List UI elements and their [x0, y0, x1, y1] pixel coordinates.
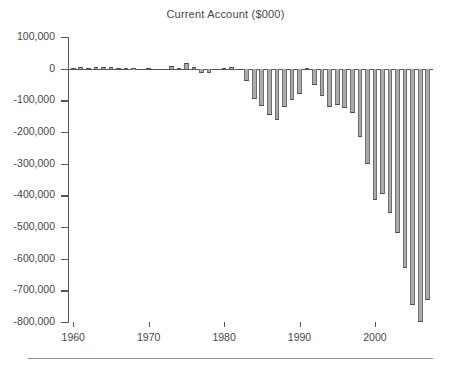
x-axis-tick-label: 1990 [288, 331, 311, 343]
bar [395, 69, 400, 233]
bar [161, 69, 166, 71]
x-axis-tick-label: 2000 [363, 331, 386, 343]
bar [124, 68, 129, 69]
bar [199, 69, 204, 74]
bar [222, 68, 227, 69]
bar [365, 69, 370, 165]
y-axis-tick-label: -200,000 [14, 125, 55, 137]
y-axis-tick-mark [61, 322, 69, 323]
bar [229, 67, 234, 69]
bar [154, 69, 159, 70]
bar [320, 69, 325, 96]
x-axis-tick-label: 1980 [212, 331, 235, 343]
bar [192, 67, 197, 68]
bar [373, 69, 378, 201]
bar [350, 69, 355, 114]
bar [312, 69, 317, 85]
bar [388, 69, 393, 214]
plot-area [68, 37, 433, 322]
y-axis-tick-label: 100,000 [17, 30, 55, 42]
x-axis-tick-label: 1960 [62, 331, 85, 343]
y-axis-tick-label: -600,000 [14, 252, 55, 264]
chart-title: Current Account ($000) [0, 8, 451, 20]
bar [109, 67, 114, 69]
bar [252, 69, 257, 99]
bar [146, 68, 151, 69]
bar [169, 66, 174, 68]
bar [237, 69, 242, 71]
y-axis-tick-label: -500,000 [14, 220, 55, 232]
x-axis-tick-mark [224, 322, 225, 327]
bar [282, 69, 287, 107]
bar [410, 69, 415, 305]
y-axis-tick-label: -100,000 [14, 93, 55, 105]
y-axis-tick-label: -400,000 [14, 188, 55, 200]
y-axis-tick-label: -800,000 [14, 315, 55, 327]
bar [207, 69, 212, 74]
bar [116, 68, 121, 69]
bar [214, 69, 219, 70]
bar [335, 69, 340, 105]
bar [71, 68, 76, 69]
x-axis-tick-mark [300, 322, 301, 327]
bar [275, 69, 280, 120]
bar [267, 69, 272, 116]
bar [425, 69, 430, 301]
bar [327, 69, 332, 108]
bar [131, 68, 136, 69]
y-axis-tick-label: -300,000 [14, 157, 55, 169]
bar [94, 67, 99, 68]
bar [380, 69, 385, 195]
bar [403, 69, 408, 268]
bar [358, 69, 363, 137]
bar [177, 68, 182, 69]
bar [86, 68, 91, 69]
x-axis-tick-mark [73, 322, 74, 327]
bar [184, 63, 189, 69]
bar [342, 69, 347, 109]
bar [297, 69, 302, 94]
bar [290, 69, 295, 101]
bar [101, 67, 106, 69]
footer-divider [28, 358, 433, 359]
bar [305, 68, 310, 69]
chart-container: Current Account ($000) 100,0000-100,000-… [0, 0, 451, 377]
bar [244, 69, 249, 81]
bar [78, 67, 83, 68]
x-axis-tick-label: 1970 [137, 331, 160, 343]
bar [139, 69, 144, 70]
bar [418, 69, 423, 323]
bar [259, 69, 264, 106]
y-axis-tick-label: -700,000 [14, 283, 55, 295]
x-axis-tick-mark [375, 322, 376, 327]
x-axis-tick-mark [149, 322, 150, 327]
y-axis-tick-label: 0 [49, 62, 55, 74]
